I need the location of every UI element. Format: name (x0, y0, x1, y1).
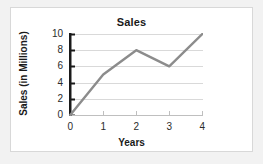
x-tick-label: 3 (166, 121, 172, 133)
y-axis-tick-labels: 0246810 (37, 33, 63, 116)
x-tick-label: 0 (67, 121, 73, 133)
y-tick-label: 8 (57, 45, 63, 55)
y-tick-label: 0 (57, 110, 63, 120)
y-axis-title: Sales (in Millions) (18, 15, 29, 133)
data-series-line (70, 34, 202, 115)
chart-title: Sales (11, 16, 252, 28)
x-axis-tick-marks (71, 111, 203, 116)
chart-panel: Sales Sales (in Millions) 0246810 01234 … (10, 7, 253, 152)
x-tick-label: 1 (100, 121, 106, 133)
plot-area (69, 33, 203, 116)
y-tick-label: 2 (57, 94, 63, 104)
x-axis-title: Years (11, 137, 252, 148)
y-tick-label: 10 (52, 29, 63, 39)
line-chart-svg (69, 33, 203, 116)
y-tick-label: 6 (57, 61, 63, 71)
x-axis-tick-labels: 01234 (69, 121, 203, 135)
x-tick-label: 2 (133, 121, 139, 133)
x-tick-label: 4 (199, 121, 205, 133)
chart-figure: Sales Sales (in Millions) 0246810 01234 … (0, 0, 263, 164)
y-tick-label: 4 (57, 78, 63, 88)
